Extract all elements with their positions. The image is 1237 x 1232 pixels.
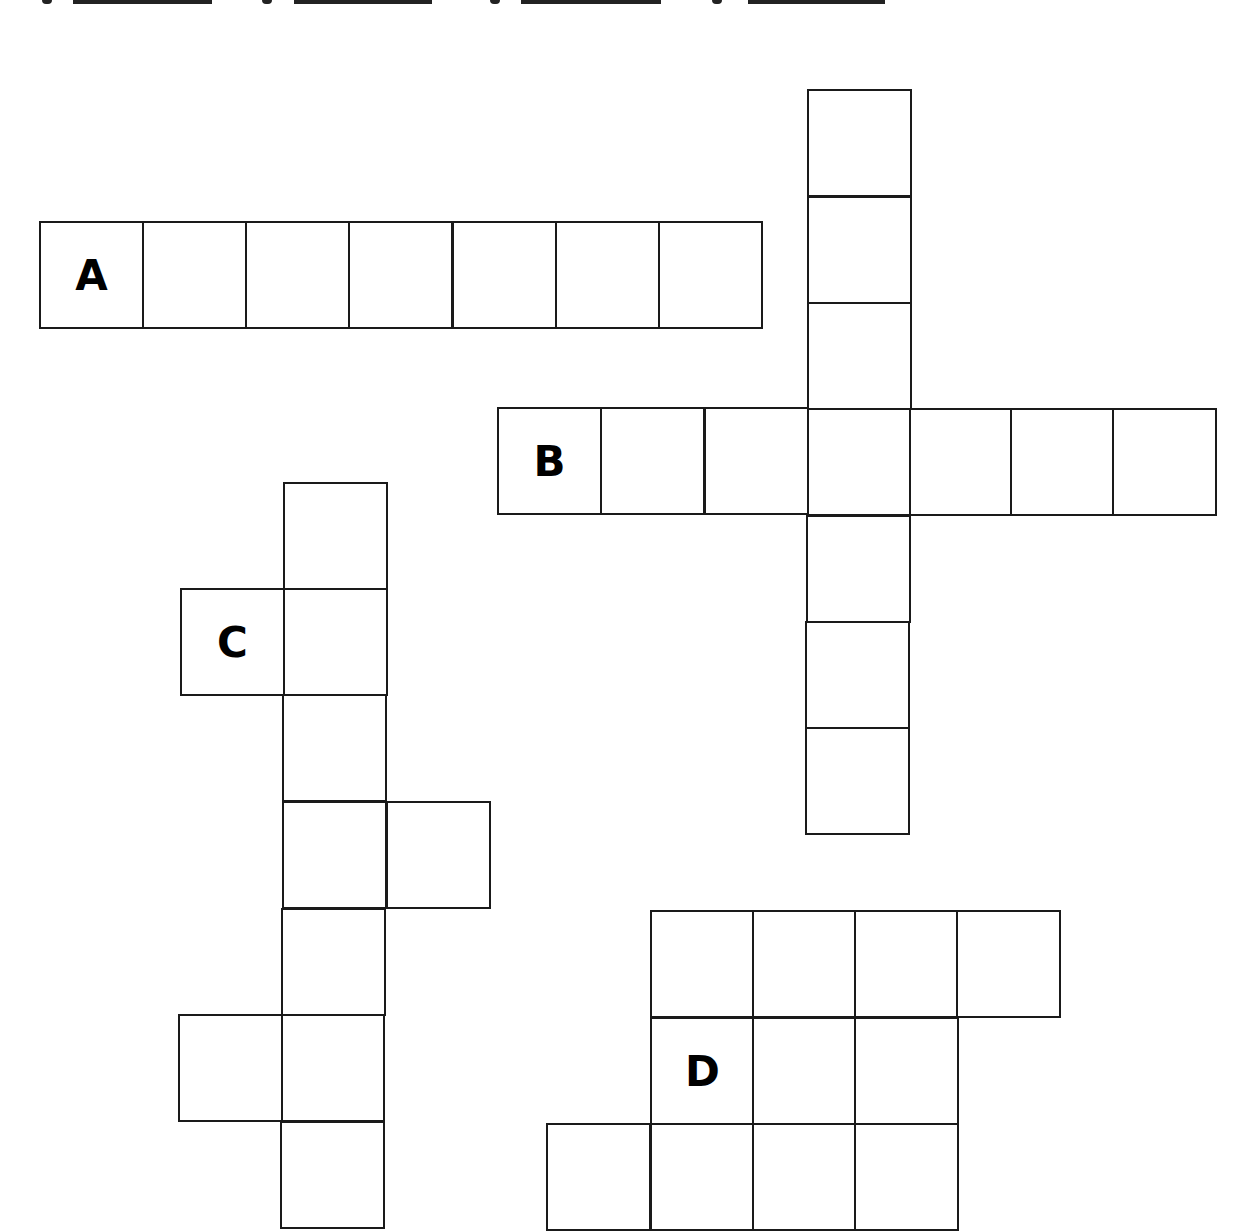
grid-cell[interactable] bbox=[600, 407, 705, 515]
grid-cell[interactable] bbox=[752, 910, 857, 1018]
grid-cell[interactable] bbox=[348, 221, 453, 329]
grid-cell[interactable] bbox=[704, 407, 809, 515]
grid-cell[interactable] bbox=[658, 221, 763, 329]
grid-cell[interactable] bbox=[752, 1017, 857, 1125]
answer-blank-c[interactable] bbox=[521, 0, 661, 4]
clue-label-cell-b: B bbox=[497, 407, 602, 515]
grid-cell[interactable] bbox=[283, 482, 388, 590]
grid-cell[interactable] bbox=[805, 621, 910, 729]
grid-cell[interactable] bbox=[452, 221, 557, 329]
grid-cell[interactable] bbox=[854, 910, 959, 1018]
answer-letter-d bbox=[712, 0, 722, 4]
grid-cell[interactable] bbox=[281, 908, 386, 1016]
grid-cell[interactable] bbox=[807, 302, 912, 410]
grid-cell[interactable] bbox=[555, 221, 660, 329]
grid-cell[interactable] bbox=[650, 1123, 755, 1231]
grid-cell[interactable] bbox=[282, 694, 387, 802]
clue-label-cell-d: D bbox=[650, 1017, 755, 1125]
grid-cell[interactable] bbox=[142, 221, 247, 329]
grid-cell[interactable] bbox=[650, 910, 755, 1018]
grid-cell[interactable] bbox=[807, 89, 912, 197]
answer-blank-d[interactable] bbox=[748, 0, 885, 4]
grid-cell[interactable] bbox=[805, 727, 910, 835]
clue-label-cell-c: C bbox=[180, 588, 285, 696]
clue-label: C bbox=[180, 588, 285, 696]
clue-label: D bbox=[650, 1017, 755, 1125]
grid-cell[interactable] bbox=[280, 1121, 385, 1229]
grid-cell[interactable] bbox=[807, 196, 912, 304]
grid-cell[interactable] bbox=[909, 408, 1014, 516]
grid-cell[interactable] bbox=[807, 408, 912, 516]
answer-letter-b bbox=[262, 0, 272, 4]
grid-cell[interactable] bbox=[245, 221, 350, 329]
grid-cell[interactable] bbox=[1010, 408, 1115, 516]
grid-cell[interactable] bbox=[283, 588, 388, 696]
answer-letter-c bbox=[490, 0, 500, 4]
grid-cell[interactable] bbox=[282, 801, 387, 909]
answer-letter-a bbox=[42, 0, 52, 4]
grid-cell[interactable] bbox=[854, 1123, 959, 1231]
answer-blank-b[interactable] bbox=[294, 0, 432, 4]
clue-label-cell-a: A bbox=[39, 221, 144, 329]
answer-blank-a[interactable] bbox=[73, 0, 212, 4]
clue-label: A bbox=[39, 221, 144, 329]
grid-cell[interactable] bbox=[386, 801, 491, 909]
grid-cell[interactable] bbox=[752, 1123, 857, 1231]
grid-cell[interactable] bbox=[178, 1014, 283, 1122]
grid-cell[interactable] bbox=[280, 1014, 385, 1122]
grid-cell[interactable] bbox=[546, 1123, 651, 1231]
clue-label: B bbox=[497, 407, 602, 515]
grid-cell[interactable] bbox=[1112, 408, 1217, 516]
grid-cell[interactable] bbox=[854, 1017, 959, 1125]
grid-cell[interactable] bbox=[956, 910, 1061, 1018]
grid-cell[interactable] bbox=[806, 515, 911, 623]
